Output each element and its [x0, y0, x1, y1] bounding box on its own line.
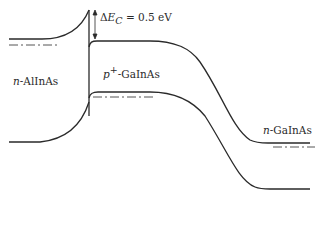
base-label: p+-GaInAs [103, 64, 160, 80]
base-valence-band [89, 92, 310, 189]
emitter-label: n-AlInAs [13, 75, 58, 87]
collector-label: n-GaInAs [263, 124, 312, 136]
emitter-valence-band [9, 102, 89, 142]
band-diagram-svg [0, 0, 327, 228]
band-diagram: ΔEC = 0.5 eV n-AlInAs p+-GaInAs n-GaInAs [0, 0, 327, 228]
delta-ec-label: ΔEC = 0.5 eV [100, 11, 172, 26]
emitter-conduction-band [9, 10, 89, 39]
